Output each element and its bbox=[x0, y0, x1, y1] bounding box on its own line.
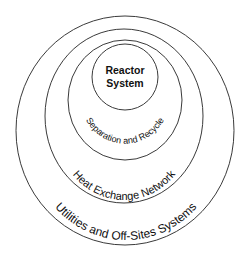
reactor-label-line2: System bbox=[106, 77, 143, 89]
utilities-label: Utilities and Off-Sites Systems bbox=[53, 200, 200, 243]
separation-label: Separation and Recycle bbox=[84, 116, 166, 146]
reactor-label-line1: Reactor bbox=[105, 64, 144, 76]
ring-utilities bbox=[16, 16, 234, 245]
heat-exchange-label: Heat Exchange Network bbox=[71, 168, 177, 203]
ring-heat-exchange bbox=[45, 29, 203, 203]
onion-diagram: Reactor System Separation and Recycle He… bbox=[0, 0, 244, 260]
